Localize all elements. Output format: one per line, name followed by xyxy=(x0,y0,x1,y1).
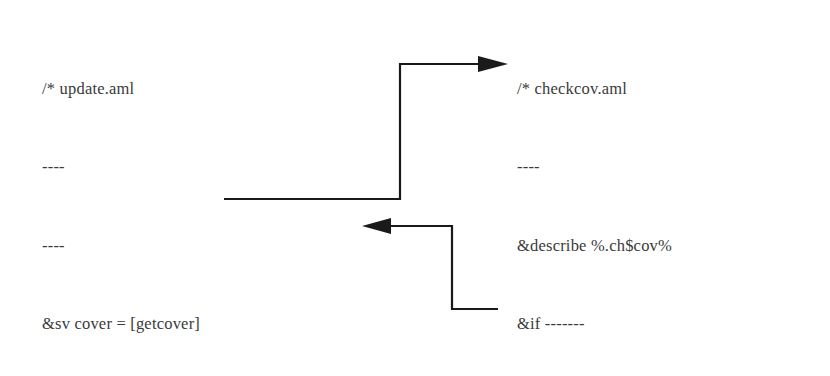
call-arrow-icon xyxy=(224,56,508,199)
return-arrow-icon xyxy=(362,218,498,309)
flow-arrows xyxy=(0,0,830,376)
